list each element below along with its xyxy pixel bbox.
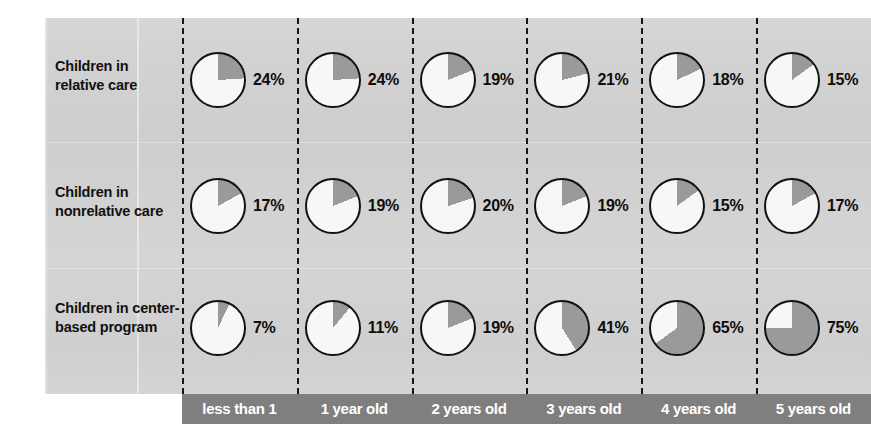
pie-chart (305, 52, 361, 108)
pie-cell: 75% (756, 296, 871, 360)
row-separator (45, 268, 871, 269)
pie-percent-label: 15% (827, 71, 858, 89)
pie-cell: 15% (641, 174, 756, 238)
pie-chart (190, 178, 246, 234)
pie-percent-label: 19% (483, 319, 514, 337)
pie-chart (764, 300, 820, 356)
pie-cell: 15% (756, 48, 871, 112)
pie-cell: 11% (297, 296, 412, 360)
pie-cell: 24% (297, 48, 412, 112)
pie-cell: 18% (641, 48, 756, 112)
pie-cell: 19% (526, 174, 641, 238)
pie-cell: 19% (412, 296, 527, 360)
pie-chart (190, 52, 246, 108)
pie-percent-label: 20% (483, 197, 514, 215)
pie-cell: 19% (297, 174, 412, 238)
pie-chart (764, 52, 820, 108)
pie-cell: 20% (412, 174, 527, 238)
pie-percent-label: 18% (712, 71, 743, 89)
row-label-1: Children in relative care (55, 57, 180, 95)
pie-percent-label: 15% (712, 197, 743, 215)
pie-chart (649, 178, 705, 234)
pie-percent-label: 75% (827, 319, 858, 337)
x-axis-label-6: 5 years old (756, 394, 871, 424)
x-axis-bar: less than 11 year old2 years old3 years … (182, 394, 871, 424)
pie-percent-label: 19% (483, 71, 514, 89)
pie-percent-label: 17% (253, 197, 284, 215)
pie-chart (305, 300, 361, 356)
pie-chart (534, 300, 590, 356)
pie-cell: 17% (756, 174, 871, 238)
pie-cell: 41% (526, 296, 641, 360)
x-axis-label-5: 4 years old (641, 394, 756, 424)
pie-chart (764, 178, 820, 234)
pie-cell: 19% (412, 48, 527, 112)
pie-chart (305, 178, 361, 234)
pie-cell: 7% (182, 296, 297, 360)
pie-percent-label: 65% (712, 319, 743, 337)
pie-cell: 21% (526, 48, 641, 112)
pie-grid-chart: Percentage of Children in Each Age Group… (0, 0, 871, 432)
pie-percent-label: 7% (253, 319, 276, 337)
x-axis-label-4: 3 years old (526, 394, 641, 424)
pie-percent-label: 21% (597, 71, 628, 89)
x-axis-label-1: less than 1 (182, 394, 297, 424)
pie-chart (420, 300, 476, 356)
pie-percent-label: 24% (368, 71, 399, 89)
pie-cell: 65% (641, 296, 756, 360)
pie-chart (534, 52, 590, 108)
pie-percent-label: 19% (597, 197, 628, 215)
pie-percent-label: 17% (827, 197, 858, 215)
pie-chart (649, 52, 705, 108)
pie-chart (190, 300, 246, 356)
row-separator (45, 142, 871, 143)
pie-cell: 17% (182, 174, 297, 238)
pie-cell: 24% (182, 48, 297, 112)
row-label-2: Children in nonrelative care (55, 183, 180, 221)
pie-chart (420, 52, 476, 108)
pie-chart (420, 178, 476, 234)
pie-percent-label: 41% (597, 319, 628, 337)
pie-percent-label: 19% (368, 197, 399, 215)
pie-percent-label: 24% (253, 71, 284, 89)
x-axis-label-3: 2 years old (412, 394, 527, 424)
pie-percent-label: 11% (368, 319, 398, 337)
x-axis-label-2: 1 year old (297, 394, 412, 424)
pie-chart (534, 178, 590, 234)
pie-chart (649, 300, 705, 356)
row-label-3: Children in center-based program (55, 299, 180, 337)
